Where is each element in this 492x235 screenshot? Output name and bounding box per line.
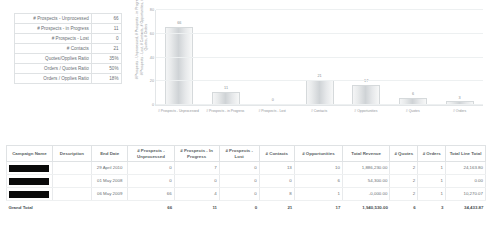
chart-bar-slot[interactable]: 11 xyxy=(203,10,250,105)
cell-line-total: 10,270.07 xyxy=(446,188,486,201)
chart-bar-slot[interactable]: 17 xyxy=(343,10,390,105)
col-opportunities[interactable]: # Opportunities xyxy=(294,146,342,162)
summary-label: # Prospects - Unprocessed xyxy=(15,14,92,24)
chart-bars: 66110211763 xyxy=(156,10,483,105)
cell-unprocessed: 0 xyxy=(128,175,174,188)
col-prospects-in-progress[interactable]: # Prospects - In Progress xyxy=(174,146,219,162)
chart-bar-value-label: 3 xyxy=(459,97,461,101)
table-row[interactable]: 29 April 2010 0 7 0 13 10 1,886,230.00 2… xyxy=(7,162,486,175)
summary-row: Orders / Quotes Ratio 50% xyxy=(15,64,122,74)
chart-x-tick-label: # Orders xyxy=(436,108,483,128)
chart-gridline: 60 xyxy=(156,33,483,34)
grand-total-end-date xyxy=(92,201,128,215)
chart-plot-area: 66110211763 020406080 xyxy=(155,10,483,106)
summary-label: # Prospects - Lost xyxy=(15,34,92,44)
cell-opportunities: 1 xyxy=(294,188,342,201)
cell-revenue: 54,300.00 xyxy=(342,175,389,188)
chart-x-tick-label: # Quotes xyxy=(389,108,436,128)
chart-bar[interactable] xyxy=(165,27,193,105)
cell-lost: 0 xyxy=(219,175,259,188)
col-prospects-lost[interactable]: # Prospects - Lost xyxy=(219,146,259,162)
chart-x-tick-label: # Contacts xyxy=(296,108,343,128)
chart-bar-value-label: 11 xyxy=(224,87,228,91)
cell-orders: 1 xyxy=(418,175,446,188)
summary-value: 21 xyxy=(92,44,122,54)
cell-description xyxy=(52,188,91,201)
summary-label: Quotes/Opplies Ratio xyxy=(15,54,92,64)
chart-y-tick-label: 20 xyxy=(150,79,154,83)
cell-in-progress: 0 xyxy=(174,175,219,188)
chart-y-tick-label: 0 xyxy=(152,103,154,107)
campaign-detail-table: Campaign Name Description End Date # Pro… xyxy=(6,145,486,215)
summary-row: # Prospects - in Progress 11 xyxy=(15,24,122,34)
cell-end-date: 06 May 2009 xyxy=(92,188,128,201)
cell-lost: 0 xyxy=(219,188,259,201)
detail-header-row: Campaign Name Description End Date # Pro… xyxy=(7,146,486,162)
summary-value: 35% xyxy=(92,54,122,64)
chart-bar-slot[interactable]: 0 xyxy=(249,10,296,105)
grand-total-label: Grand Total xyxy=(7,201,53,215)
summary-label: # Prospects - in Progress xyxy=(15,24,92,34)
cell-orders: 1 xyxy=(418,188,446,201)
chart-bar-slot[interactable]: 66 xyxy=(156,10,203,105)
cell-contacts: 0 xyxy=(259,175,294,188)
grand-total-lost: 0 xyxy=(219,201,259,215)
detail-body: 29 April 2010 0 7 0 13 10 1,886,230.00 2… xyxy=(7,162,486,215)
summary-value: 0 xyxy=(92,34,122,44)
col-description[interactable]: Description xyxy=(52,146,91,162)
cell-unprocessed: 0 xyxy=(128,162,174,175)
grand-total-in-progress: 11 xyxy=(174,201,219,215)
summary-row: Orders / Opplies Ratio 18% xyxy=(15,74,122,84)
col-end-date[interactable]: End Date xyxy=(92,146,128,162)
cell-campaign-name xyxy=(7,188,53,201)
chart-bar[interactable] xyxy=(352,85,380,105)
redacted-campaign-name xyxy=(9,178,49,185)
summary-row: # Contacts 21 xyxy=(15,44,122,54)
grand-total-orders: 3 xyxy=(418,201,446,215)
cell-description xyxy=(52,162,91,175)
cell-line-total: 24,163.80 xyxy=(446,162,486,175)
summary-metrics-table: # Prospects - Unprocessed 66 # Prospects… xyxy=(14,13,122,84)
chart-bar[interactable] xyxy=(306,80,334,105)
metrics-bar-chart: # Prospects - Unprocessed, # Prospects -… xyxy=(133,6,485,128)
summary-label: Orders / Opplies Ratio xyxy=(15,74,92,84)
col-contacts[interactable]: # Contacts xyxy=(259,146,294,162)
cell-orders: 1 xyxy=(418,162,446,175)
table-row[interactable]: 06 May 2009 66 4 0 8 1 -0,000.00 2 1 10,… xyxy=(7,188,486,201)
chart-bar-value-label: 66 xyxy=(177,22,181,26)
grand-total-opportunities: 17 xyxy=(294,201,342,215)
chart-y-tick-label: 80 xyxy=(150,8,154,12)
table-row[interactable]: 01 May 2008 0 0 0 0 6 54,300.00 2 1 0.00 xyxy=(7,175,486,188)
col-total-revenue[interactable]: Total Revenue xyxy=(342,146,389,162)
summary-row: # Prospects - Lost 0 xyxy=(15,34,122,44)
chart-y-axis-title: # Prospects - Unprocessed, # Prospects -… xyxy=(135,0,149,80)
grand-total-line-total: 34,433.87 xyxy=(446,201,486,215)
grand-total-unprocessed: 66 xyxy=(128,201,174,215)
chart-bar-slot[interactable]: 21 xyxy=(296,10,343,105)
summary-row: Quotes/Opplies Ratio 35% xyxy=(15,54,122,64)
summary-value: 50% xyxy=(92,64,122,74)
chart-bar-value-label: 0 xyxy=(272,99,274,103)
summary-label: # Contacts xyxy=(15,44,92,54)
grand-total-contacts: 21 xyxy=(259,201,294,215)
cell-lost: 0 xyxy=(219,162,259,175)
col-campaign-name[interactable]: Campaign Name xyxy=(7,146,53,162)
redacted-campaign-name xyxy=(9,191,49,198)
cell-end-date: 29 April 2010 xyxy=(92,162,128,175)
cell-opportunities: 10 xyxy=(294,162,342,175)
grand-total-description xyxy=(52,201,91,215)
chart-bar-slot[interactable]: 3 xyxy=(436,10,483,105)
col-quotes[interactable]: # Quotes xyxy=(390,146,418,162)
chart-x-tick-label: # Opportunities xyxy=(342,108,389,128)
cell-end-date: 01 May 2008 xyxy=(92,175,128,188)
chart-gridline: 0 xyxy=(156,104,483,105)
chart-bar-slot[interactable]: 6 xyxy=(390,10,437,105)
cell-campaign-name xyxy=(7,175,53,188)
col-orders[interactable]: # Orders xyxy=(418,146,446,162)
col-total-line-total[interactable]: Total Line Total xyxy=(446,146,486,162)
cell-quotes: 2 xyxy=(390,188,418,201)
detail-header: Campaign Name Description End Date # Pro… xyxy=(7,146,486,162)
col-prospects-unprocessed[interactable]: # Prospects - Unprocessed xyxy=(128,146,174,162)
chart-bar-value-label: 6 xyxy=(412,93,414,97)
chart-x-axis-labels: # Prospects - Unprocessed# Prospects - i… xyxy=(155,108,483,128)
